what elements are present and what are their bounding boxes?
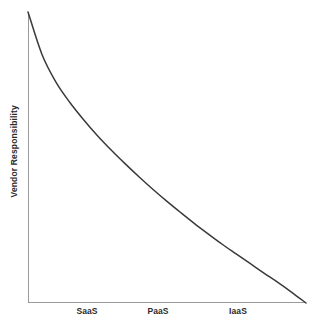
chart-figure: Vendor Responsibility SaaS PaaS IaaS — [0, 0, 317, 331]
vendor-responsibility-curve — [28, 12, 306, 303]
x-tick-label-saas: SaaS — [76, 307, 97, 316]
chart-canvas — [0, 0, 317, 331]
x-tick-label-paas: PaaS — [147, 307, 168, 316]
x-tick-label-iaas: IaaS — [229, 307, 247, 316]
